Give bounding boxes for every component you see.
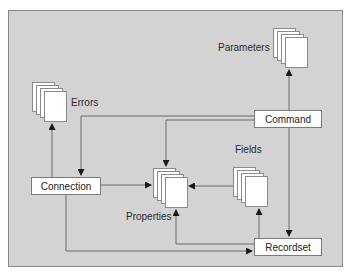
errors-collection-icon <box>32 82 68 124</box>
recordset-label: Recordset <box>265 242 311 253</box>
edge-command-properties <box>166 120 254 166</box>
connection-label: Connection <box>41 181 92 192</box>
command-node: Command <box>254 110 322 128</box>
edge-command-connection <box>81 116 254 175</box>
parameters-label: Parameters <box>218 42 270 53</box>
fields-label: Fields <box>235 144 262 155</box>
recordset-node: Recordset <box>254 238 322 256</box>
errors-label: Errors <box>71 97 98 108</box>
connection-node: Connection <box>31 177 101 195</box>
edge-recordset-properties <box>176 210 254 244</box>
properties-collection-icon <box>153 168 189 210</box>
parameters-collection-icon <box>273 28 309 70</box>
command-label: Command <box>265 114 311 125</box>
fields-collection-icon <box>233 167 269 209</box>
properties-label: Properties <box>126 211 172 222</box>
